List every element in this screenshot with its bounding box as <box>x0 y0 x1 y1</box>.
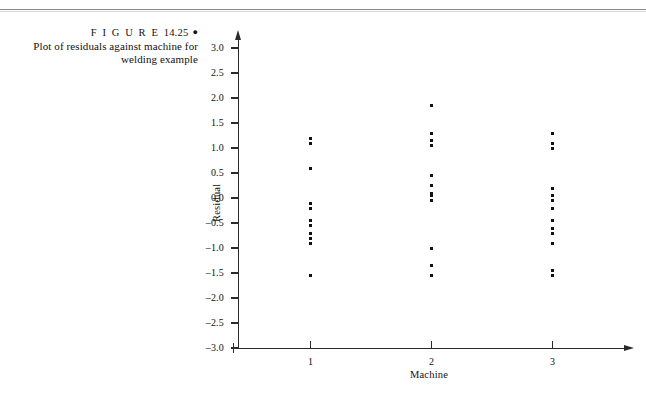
y-tick-mark <box>231 272 238 273</box>
data-point <box>430 144 433 147</box>
y-tick-mark <box>231 122 238 123</box>
data-point <box>430 184 433 187</box>
y-tick-label: –1.0 <box>188 242 224 253</box>
data-point <box>551 232 554 235</box>
data-point <box>551 194 554 197</box>
y-tick-mark <box>231 72 238 73</box>
y-tick-label: 2.5 <box>188 67 224 78</box>
y-tick-label: 0.5 <box>188 167 224 178</box>
data-point <box>309 167 312 170</box>
y-tick-label: –2.0 <box>188 292 224 303</box>
x-axis-title: Machine <box>369 369 489 380</box>
data-point <box>309 137 312 140</box>
y-tick-label: 2.0 <box>188 92 224 103</box>
x-axis-line <box>232 348 625 349</box>
x-tick-mark <box>310 341 311 348</box>
x-tick-label: 3 <box>542 356 562 367</box>
data-point <box>551 274 554 277</box>
x-tick-mark <box>552 341 553 348</box>
x-tick-label: 2 <box>422 356 442 367</box>
y-tick-mark <box>231 97 238 98</box>
y-tick-mark <box>231 147 238 148</box>
y-tick-label: –3.0 <box>188 342 224 353</box>
data-point <box>551 147 554 150</box>
data-point <box>551 132 554 135</box>
y-tick-label: –2.5 <box>188 317 224 328</box>
data-point <box>430 247 433 250</box>
y-tick-mark <box>231 197 238 198</box>
data-point <box>430 104 433 107</box>
data-point <box>551 269 554 272</box>
y-axis-arrow-icon <box>235 30 241 40</box>
y-axis-title: Residual <box>211 184 222 222</box>
data-point <box>430 199 433 202</box>
y-tick-label: –1.5 <box>188 267 224 278</box>
y-tick-label: 3.0 <box>188 42 224 53</box>
scatter-plot: 3.02.52.01.51.00.50.0–0.5–1.0–1.5–2.0–2.… <box>0 0 646 396</box>
data-point <box>551 227 554 230</box>
data-point <box>309 202 312 205</box>
y-tick-label: 1.0 <box>188 142 224 153</box>
data-point <box>430 174 433 177</box>
data-point <box>430 264 433 267</box>
y-tick-mark <box>231 222 238 223</box>
y-tick-mark <box>231 297 238 298</box>
data-point <box>430 139 433 142</box>
x-axis-arrow-icon <box>624 345 634 351</box>
data-point <box>551 142 554 145</box>
data-point <box>551 199 554 202</box>
data-point <box>309 219 312 222</box>
data-point <box>309 232 312 235</box>
y-tick-mark <box>231 322 238 323</box>
y-tick-mark <box>231 247 238 248</box>
y-axis-line <box>238 40 239 349</box>
x-axis-origin-stub <box>233 343 234 353</box>
data-point <box>430 194 433 197</box>
data-point <box>551 219 554 222</box>
y-tick-mark <box>231 172 238 173</box>
x-tick-mark <box>431 341 432 348</box>
y-tick-mark <box>231 47 238 48</box>
data-point <box>551 242 554 245</box>
y-tick-label: 1.5 <box>188 117 224 128</box>
data-point <box>430 274 433 277</box>
data-point <box>551 207 554 210</box>
data-point <box>309 142 312 145</box>
data-point <box>309 242 312 245</box>
data-point <box>430 132 433 135</box>
data-point <box>309 274 312 277</box>
x-tick-label: 1 <box>301 356 321 367</box>
data-point <box>309 237 312 240</box>
data-point <box>309 207 312 210</box>
data-point <box>551 187 554 190</box>
data-point <box>309 224 312 227</box>
